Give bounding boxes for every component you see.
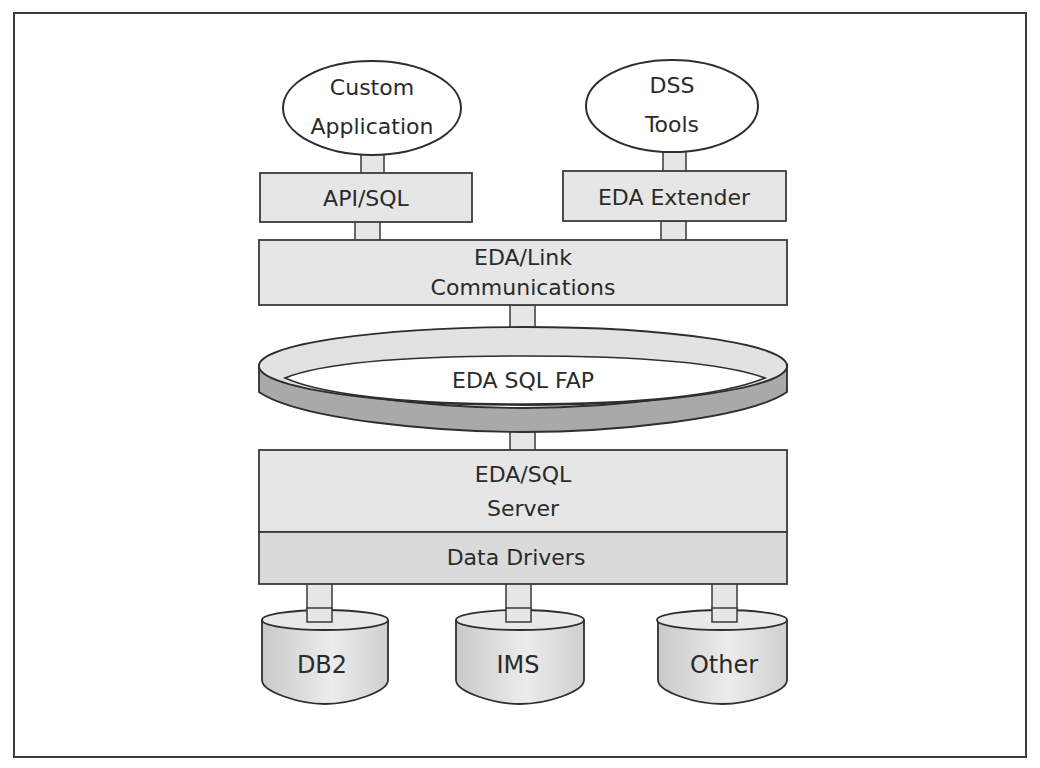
link-layer-line1: EDA/Link <box>474 245 572 270</box>
database-db2: DB2 <box>262 608 388 704</box>
interface-label: API/SQL <box>323 186 409 211</box>
data-drivers-label: Data Drivers <box>447 545 586 570</box>
connector-extender-to-link <box>661 221 686 241</box>
client-label-line2: Tools <box>644 112 699 137</box>
server-line2: Server <box>487 496 560 521</box>
data-drivers-band: Data Drivers <box>259 532 787 584</box>
server-line1: EDA/SQL <box>475 462 572 487</box>
database-other: Other <box>657 608 787 704</box>
database-ims: IMS <box>456 608 584 704</box>
connector-dss-to-extender <box>663 150 686 172</box>
client-custom-application: Custom Application <box>283 61 461 155</box>
link-layer-box: EDA/Link Communications <box>259 240 787 305</box>
server-box: EDA/SQL Server <box>259 450 787 532</box>
database-label: Other <box>690 651 758 679</box>
protocol-ring-label: EDA SQL FAP <box>452 368 594 393</box>
client-label-line1: DSS <box>650 73 695 98</box>
interface-eda-extender: EDA Extender <box>563 171 786 221</box>
interface-api-sql: API/SQL <box>260 173 472 222</box>
database-label: DB2 <box>297 651 347 679</box>
database-label: IMS <box>496 651 539 679</box>
client-label-line1: Custom <box>330 75 414 100</box>
eda-sql-architecture-diagram: Custom Application DSS Tools API/SQL EDA… <box>0 0 1040 768</box>
link-layer-line2: Communications <box>431 275 616 300</box>
connector-api-to-link <box>355 221 380 241</box>
client-label-line2: Application <box>311 114 434 139</box>
interface-label: EDA Extender <box>598 185 751 210</box>
protocol-ring: EDA SQL FAP <box>259 327 787 432</box>
client-dss-tools: DSS Tools <box>586 60 758 152</box>
